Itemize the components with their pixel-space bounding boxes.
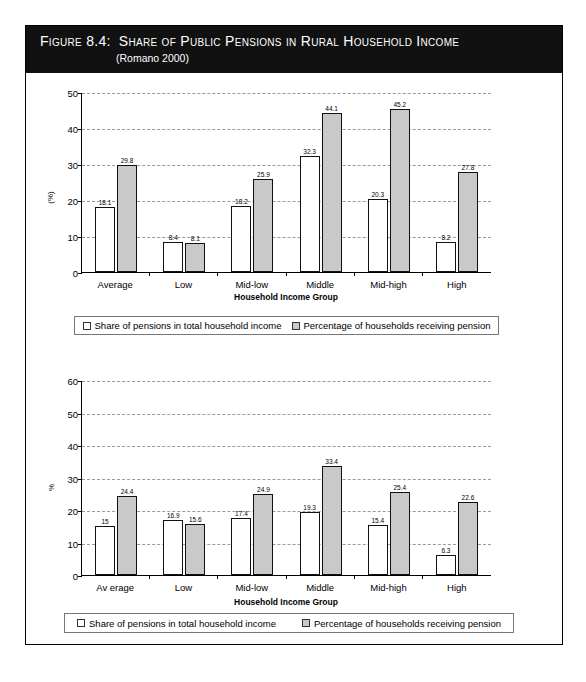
x-axis-title-bottom: Household Income Group	[81, 597, 491, 607]
bar-value-label: 6.3	[441, 547, 450, 554]
x-axis-tick-label: Middle	[286, 279, 354, 290]
bar-group: 15.425.4	[355, 381, 423, 575]
legend-swatch-white-icon	[83, 322, 91, 330]
bar: 8.1	[185, 243, 205, 272]
bar: 32.3	[300, 156, 320, 272]
legend-label-percentage: Percentage of households receiving pensi…	[304, 320, 491, 331]
bar: 18.2	[231, 206, 251, 272]
y-axis-tick-label: 30	[67, 160, 78, 171]
figure-title: Share of Public Pensions in Rural Househ…	[119, 33, 460, 49]
bar-value-label: 17.4	[235, 510, 248, 517]
x-axis-tick-label: Mid-high	[354, 582, 422, 593]
bar-value-label: 24.4	[121, 488, 134, 495]
y-axis-tick-mark	[78, 273, 82, 274]
bar-value-label: 32.3	[303, 148, 316, 155]
bar-value-label: 15.6	[189, 516, 202, 523]
x-axis-tick-label: Mid-high	[354, 279, 422, 290]
bar-value-label: 29.8	[121, 157, 134, 164]
y-axis-tick-label: 40	[67, 441, 78, 452]
bar-value-label: 8.2	[441, 234, 450, 241]
bar-group: 6.322.6	[423, 381, 491, 575]
charts-container: (%) 0102030405018.129.88.48.118.225.932.…	[26, 73, 562, 643]
bar: 15	[95, 526, 115, 575]
bar: 29.8	[117, 165, 137, 272]
bar: 15.4	[368, 525, 388, 575]
bar-value-label: 15	[101, 518, 108, 525]
bar-value-label: 45.2	[393, 101, 406, 108]
legend-top: Share of pensions in total household inc…	[74, 316, 499, 335]
bar: 25.9	[253, 179, 273, 272]
bar-value-label: 25.4	[393, 484, 406, 491]
legend-item-percentage-2: Percentage of households receiving pensi…	[302, 618, 501, 629]
bar-groups: 18.129.88.48.118.225.932.344.120.345.28.…	[82, 93, 491, 272]
plot-area-bottom: 01020304050601524.416.915.617.424.919.33…	[81, 381, 491, 576]
bar-group: 32.344.1	[287, 93, 355, 272]
legend-swatch-gray-icon-2	[302, 619, 310, 627]
y-axis-label-bottom: %	[47, 484, 56, 491]
legend-label-share-2: Share of pensions in total household inc…	[89, 618, 276, 629]
legend-label-share: Share of pensions in total household inc…	[95, 320, 282, 331]
y-axis-tick-label: 50	[67, 88, 78, 99]
legend-swatch-gray-icon	[292, 322, 300, 330]
x-axis-tick-label: High	[423, 279, 491, 290]
bar: 18.1	[95, 207, 115, 272]
bar-value-label: 16.9	[167, 512, 180, 519]
bar: 44.1	[322, 113, 342, 272]
bar: 24.9	[253, 494, 273, 575]
bar: 8.2	[436, 242, 456, 272]
bar-group: 8.48.1	[150, 93, 218, 272]
bar-value-label: 33.4	[325, 458, 338, 465]
y-axis-tick-label: 20	[67, 196, 78, 207]
bar-group: 1524.4	[82, 381, 150, 575]
bar: 27.8	[458, 172, 478, 272]
y-axis-tick-mark	[78, 576, 82, 577]
bar-value-label: 15.4	[371, 517, 384, 524]
y-axis-tick-label: 10	[67, 538, 78, 549]
bar-value-label: 8.4	[169, 234, 178, 241]
bar: 24.4	[117, 496, 137, 575]
x-axis-title-top: Household Income Group	[81, 292, 491, 302]
bar: 15.6	[185, 524, 205, 575]
bar-group: 19.333.4	[287, 381, 355, 575]
bar-group: 8.227.8	[423, 93, 491, 272]
x-axis-tick-label: Middle	[286, 582, 354, 593]
bar: 25.4	[390, 492, 410, 575]
legend-item-share: Share of pensions in total household inc…	[83, 320, 282, 331]
legend-label-percentage-2: Percentage of households receiving pensi…	[314, 618, 501, 629]
x-axis-tick-label: High	[423, 582, 491, 593]
bar-groups: 1524.416.915.617.424.919.333.415.425.46.…	[82, 381, 491, 575]
bar-group: 20.345.2	[355, 93, 423, 272]
y-axis-tick-label: 10	[67, 232, 78, 243]
bar: 20.3	[368, 199, 388, 272]
y-axis-tick-label: 30	[67, 473, 78, 484]
bar: 16.9	[163, 520, 183, 575]
figure-frame: Figure 8.4: Share of Public Pensions in …	[25, 25, 563, 645]
bar-group: 18.129.8	[82, 93, 150, 272]
legend-swatch-white-icon-2	[77, 619, 85, 627]
x-axis-labels-top: AverageLowMid-lowMiddleMid-highHigh	[81, 279, 491, 290]
bar: 45.2	[390, 109, 410, 272]
x-axis-tick-label: Low	[149, 279, 217, 290]
y-axis-label-top: (%)	[46, 191, 55, 203]
bar-value-label: 20.3	[371, 191, 384, 198]
bar-value-label: 24.9	[257, 486, 270, 493]
x-axis-tick-label: Average	[81, 279, 149, 290]
bar-group: 18.225.9	[218, 93, 286, 272]
x-axis-labels-bottom: Av erageLowMid-lowMiddleMid-highHigh	[81, 582, 491, 593]
bar: 8.4	[163, 242, 183, 272]
x-axis-tick-label: Mid-low	[218, 279, 286, 290]
bar-group: 17.424.9	[218, 381, 286, 575]
legend-bottom: Share of pensions in total household inc…	[64, 613, 514, 633]
bar: 19.3	[300, 512, 320, 575]
bar-value-label: 22.6	[462, 494, 475, 501]
chart-top: (%) 0102030405018.129.88.48.118.225.932.…	[26, 73, 562, 363]
chart-bottom: % 01020304050601524.416.915.617.424.919.…	[26, 363, 562, 643]
bar-value-label: 18.1	[99, 199, 112, 206]
bar: 6.3	[436, 555, 456, 575]
y-axis-tick-label: 60	[67, 376, 78, 387]
bar-value-label: 8.1	[191, 235, 200, 242]
y-axis-tick-label: 20	[67, 506, 78, 517]
x-axis-tick-label: Av erage	[81, 582, 149, 593]
bar: 17.4	[231, 518, 251, 575]
legend-item-percentage: Percentage of households receiving pensi…	[292, 320, 491, 331]
